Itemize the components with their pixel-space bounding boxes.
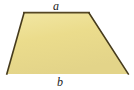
side-label-a: a [53, 0, 59, 12]
trapezoid-figure: a b [0, 0, 134, 90]
trapezoid-svg [0, 0, 134, 90]
side-label-b: b [57, 76, 63, 88]
trapezoid-fill [7, 13, 128, 74]
